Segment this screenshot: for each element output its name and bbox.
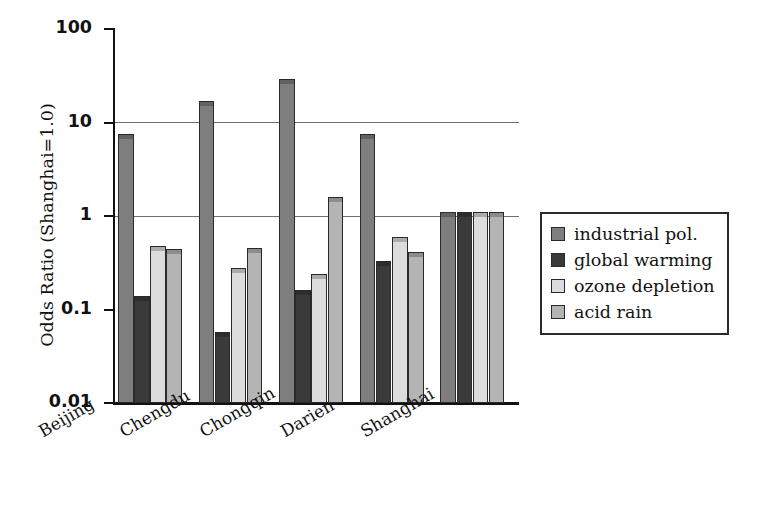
bar-top-cap bbox=[135, 297, 149, 301]
bar bbox=[295, 290, 311, 403]
y-tick-label: 10 bbox=[20, 111, 92, 131]
bar-top-cap bbox=[216, 333, 230, 337]
plot-area bbox=[113, 29, 518, 403]
bar-top-cap bbox=[200, 102, 214, 106]
legend-label: acid rain bbox=[574, 302, 652, 322]
legend-swatch-ozone-depletion-icon bbox=[551, 279, 565, 293]
bar bbox=[118, 134, 134, 403]
bar bbox=[489, 212, 505, 403]
bar bbox=[473, 212, 489, 403]
bar bbox=[328, 197, 344, 403]
bar bbox=[199, 101, 215, 403]
bar-top-cap bbox=[361, 135, 375, 139]
bar bbox=[166, 249, 182, 403]
bar-top-cap bbox=[296, 291, 310, 295]
bar-top-cap bbox=[377, 262, 391, 266]
bar-top-cap bbox=[490, 213, 504, 217]
legend-item[interactable]: global warming bbox=[551, 247, 715, 273]
bar-top-cap bbox=[329, 198, 343, 202]
legend-label: ozone depletion bbox=[574, 276, 715, 296]
legend-item[interactable]: acid rain bbox=[551, 299, 715, 325]
legend-swatch-industrial-pol-icon bbox=[551, 227, 565, 241]
bar bbox=[150, 246, 166, 403]
legend-item[interactable]: ozone depletion bbox=[551, 273, 715, 299]
bar bbox=[247, 248, 263, 403]
bar-top-cap bbox=[167, 250, 181, 254]
bar bbox=[440, 212, 456, 403]
bar-top-cap bbox=[409, 253, 423, 257]
bar bbox=[392, 237, 408, 403]
y-tick-label: 100 bbox=[20, 17, 92, 37]
y-tick-label: 0.1 bbox=[20, 298, 92, 318]
legend-label: industrial pol. bbox=[574, 224, 698, 244]
bar-top-cap bbox=[474, 213, 488, 217]
legend-item[interactable]: industrial pol. bbox=[551, 221, 715, 247]
bar bbox=[231, 268, 247, 403]
bar bbox=[215, 332, 231, 403]
bar-top-cap bbox=[119, 135, 133, 139]
bar bbox=[408, 252, 424, 403]
bar bbox=[311, 274, 327, 403]
bar-top-cap bbox=[151, 247, 165, 251]
bar-top-cap bbox=[458, 213, 472, 217]
bar-top-cap bbox=[441, 213, 455, 217]
bar-top-cap bbox=[312, 275, 326, 279]
odds-ratio-bar-chart: Odds Ratio (Shanghai=1.0) 1001010.10.01 … bbox=[0, 0, 772, 511]
bar-top-cap bbox=[232, 269, 246, 273]
bar bbox=[376, 261, 392, 403]
bar-top-cap bbox=[280, 80, 294, 84]
bar bbox=[457, 212, 473, 403]
legend-swatch-acid-rain-icon bbox=[551, 305, 565, 319]
bar bbox=[279, 79, 295, 403]
y-axis-title: Odds Ratio (Shanghai=1.0) bbox=[37, 60, 57, 390]
y-tick-label: 1 bbox=[20, 204, 92, 224]
bar-top-cap bbox=[393, 238, 407, 242]
chart-legend: industrial pol. global warming ozone dep… bbox=[540, 212, 729, 335]
bar bbox=[134, 296, 150, 403]
legend-label: global warming bbox=[574, 250, 713, 270]
legend-swatch-global-warming-icon bbox=[551, 253, 565, 267]
bar bbox=[360, 134, 376, 403]
bar-top-cap bbox=[248, 249, 262, 253]
